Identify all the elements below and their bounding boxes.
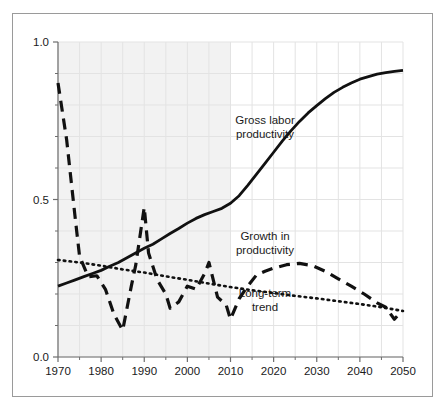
x-axis-tick-labels: 197019801990200020102020203020402050: [45, 365, 416, 377]
x-tick-label: 1980: [88, 365, 114, 377]
y-tick-label: 0.0: [33, 351, 49, 363]
annotation-line-1: Gross labor: [235, 114, 295, 126]
x-tick-label: 1970: [45, 365, 71, 377]
annotation-line-2: productivity: [236, 244, 294, 256]
annotation-line-2: trend: [252, 301, 278, 313]
y-tick-label: 1.0: [33, 36, 49, 48]
annotation-gross-labor-productivity: Gross laborproductivity: [235, 114, 295, 140]
annotation-long-term-trend: Long-termtrend: [239, 287, 291, 313]
y-tick-label: 0.5: [33, 194, 49, 206]
chart-figure: 197019801990200020102020203020402050 1.0…: [0, 0, 446, 412]
x-tick-label: 2000: [175, 365, 201, 377]
annotation-line-2: productivity: [236, 128, 294, 140]
annotation-line-1: Long-term: [239, 287, 291, 299]
x-tick-label: 2040: [347, 365, 373, 377]
x-tick-label: 2050: [390, 365, 416, 377]
y-axis-tick-labels: 1.00.50.0: [33, 36, 49, 363]
x-tick-label: 2030: [304, 365, 330, 377]
annotation-growth-in-productivity: Growth inproductivity: [236, 230, 294, 256]
x-tick-label: 2010: [218, 365, 244, 377]
x-tick-label: 1990: [131, 365, 157, 377]
x-tick-label: 2020: [261, 365, 287, 377]
annotation-line-1: Growth in: [240, 230, 289, 242]
productivity-line-chart: 197019801990200020102020203020402050 1.0…: [0, 0, 446, 412]
series-annotations: Gross laborproductivityGrowth inproducti…: [235, 114, 295, 313]
